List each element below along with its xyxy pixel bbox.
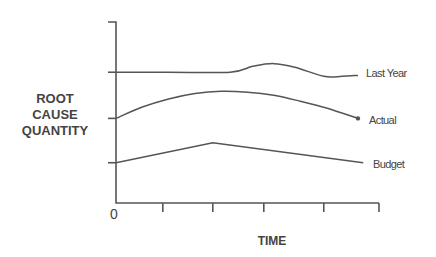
y-axis-label-line-3: QUANTITY <box>22 123 89 138</box>
y-axis-label-line-2: CAUSE <box>32 107 78 122</box>
series-line-budget <box>116 143 363 163</box>
series-label-last-year: Last Year <box>366 67 407 79</box>
x-tick-label-origin: 0 <box>110 206 118 222</box>
series-label-budget: Budget <box>373 158 405 170</box>
chart: ROOT CAUSE QUANTITY TIME 0 Last Year Act… <box>0 0 436 257</box>
x-axis-label: TIME <box>258 234 287 248</box>
axes <box>108 22 379 212</box>
series-line-last-year <box>116 64 358 77</box>
series-label-actual: Actual <box>369 114 396 126</box>
series-end-marker-actual <box>356 116 360 120</box>
y-axis-label-line-1: ROOT <box>36 91 74 106</box>
series-layer <box>116 64 363 163</box>
series-line-actual <box>116 91 358 118</box>
